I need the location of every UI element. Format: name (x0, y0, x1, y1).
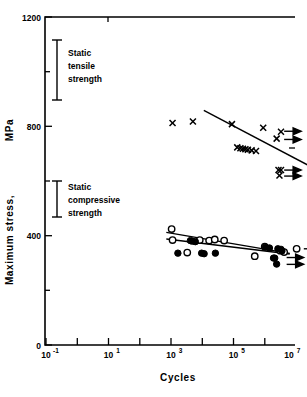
marker-open-circle (212, 236, 218, 242)
x-tick-label-1e3: 10 3 (166, 347, 182, 360)
marker-filled-circle (212, 250, 218, 256)
x-axis-major-ticks (46, 338, 265, 345)
marker-filled-circle (266, 245, 272, 251)
x-tick-mantissa-3: 10 (229, 350, 239, 360)
x-tick-label-1e-1: 10 -1 (41, 347, 59, 360)
static-compressive-label-line2: compressive (68, 195, 120, 205)
runout-arrow-head (293, 136, 301, 143)
static-tensile-label-line3: strength (68, 74, 102, 84)
y-axis-title-line1: Maximum stress, (4, 195, 15, 285)
compression-filled-markers (175, 237, 285, 267)
sn-fatigue-chart: 1200 800 400 0 10 -1 (0, 0, 307, 397)
runout-arrow-head (293, 128, 301, 135)
x-tick-exponent-3: 5 (241, 347, 245, 354)
marker-filled-circle (273, 261, 279, 267)
static-compressive-label-line1: Static (68, 182, 91, 192)
marker-filled-circle (272, 255, 278, 261)
y-tick-label-0: 0 (36, 341, 41, 351)
x-tick-exponent-2: 3 (179, 347, 183, 354)
static-tensile-label-line1: Static (68, 48, 91, 58)
marker-filled-circle (201, 251, 207, 257)
static-compressive-label-line3: strength (68, 208, 102, 218)
marker-filled-circle (175, 250, 181, 256)
x-tick-exponent-4: 7 (297, 347, 301, 354)
x-axis-tick-labels: 10 -1 10 1 10 3 10 5 10 7 (41, 347, 300, 360)
figure-container: 1200 800 400 0 10 -1 (0, 0, 307, 397)
marker-open-circle (168, 226, 174, 232)
marker-open-circle (184, 249, 190, 255)
static-tensile-strength-annotation: Static tensile strength (52, 40, 102, 100)
static-tensile-label-line2: tensile (68, 61, 95, 71)
x-tick-mantissa-4: 10 (284, 350, 294, 360)
x-tick-mantissa-1: 10 (104, 350, 114, 360)
x-tick-label-1e5: 10 5 (229, 347, 245, 360)
y-axis-title-line2: MPa (4, 119, 15, 141)
marker-open-circle (221, 237, 227, 243)
fit-lines-group (166, 110, 307, 254)
marker-open-circle (169, 237, 175, 243)
x-tick-exponent-0: -1 (53, 347, 59, 354)
marker-open-circle (252, 253, 258, 259)
marker-filled-circle (279, 248, 285, 254)
runout-arrow-head (296, 254, 304, 261)
runout-arrow-head (296, 261, 304, 268)
y-axis-tick-labels: 1200 800 400 0 (22, 13, 41, 351)
runout-arrow-head (293, 173, 301, 180)
y-tick-label-800: 800 (27, 122, 41, 132)
y-tick-label-1200: 1200 (22, 13, 41, 23)
marker-filled-circle (192, 238, 198, 244)
x-axis-title: Cycles (160, 372, 196, 383)
x-tick-label-1e1: 10 1 (104, 347, 120, 360)
tension-series-markers (170, 118, 284, 178)
y-tick-label-400: 400 (27, 231, 41, 241)
x-tick-mantissa-2: 10 (166, 350, 176, 360)
x-tick-label-1e7: 10 7 (284, 347, 300, 360)
marker-open-circle (293, 246, 299, 252)
x-tick-exponent-1: 1 (116, 347, 120, 354)
x-tick-mantissa-0: 10 (41, 350, 51, 360)
static-compressive-strength-annotation: Static compressive strength (52, 181, 120, 218)
